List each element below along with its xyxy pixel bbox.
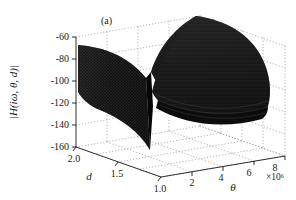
- theta-tick-label-0: 2: [190, 177, 195, 188]
- z-axis-ticks: [72, 37, 76, 147]
- panel-label: (a): [101, 15, 112, 27]
- z-axis-label: |H(iω, θ, d)|: [7, 65, 20, 119]
- z-tick-label-4: -140: [51, 119, 69, 130]
- theta-axis-exponent: ×10⁶: [266, 172, 284, 182]
- surface-mesh: [78, 16, 270, 150]
- grid-floor-pane: [76, 126, 285, 177]
- d-tick-label-1: 1.5: [111, 168, 124, 179]
- d-axis-label: d: [86, 170, 92, 182]
- surface-left-wing-mesh: [78, 45, 150, 150]
- d-tick-label-0: 2.0: [68, 153, 81, 164]
- z-tick-label-3: -120: [51, 97, 69, 108]
- surface-right-plateau-mesh: [152, 16, 270, 118]
- z-tick-label-5: -160: [51, 141, 69, 152]
- z-tick-label-0: -60: [56, 31, 69, 42]
- z-tick-label-2: -100: [51, 75, 69, 86]
- theta-tick-label-2: 6: [247, 167, 252, 178]
- d-tick-label-2: 1.0: [154, 183, 167, 194]
- plot-canvas: -60 -80 -100 -120 -140 -160 2.0 1.5 1.0 …: [0, 0, 296, 200]
- theta-tick-label-1: 4: [219, 172, 224, 183]
- figure-3d-surface-plot: -60 -80 -100 -120 -140 -160 2.0 1.5 1.0 …: [0, 0, 296, 200]
- z-tick-label-1: -80: [56, 53, 69, 64]
- theta-axis-label: θ: [230, 181, 236, 193]
